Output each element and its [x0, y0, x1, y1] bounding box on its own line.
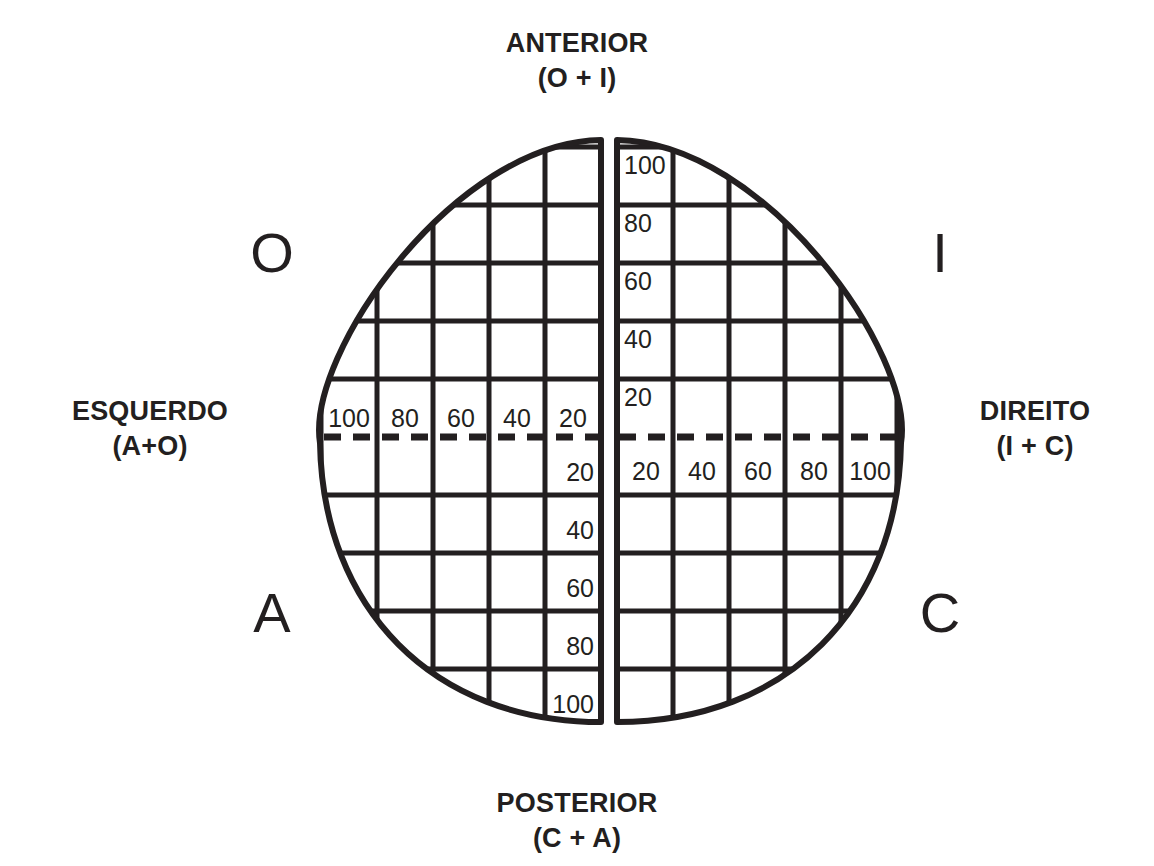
scale-horizontal-left-60: 60	[447, 404, 475, 432]
scale-vertical-upper-100: 100	[624, 151, 666, 179]
scale-vertical-lower-40: 40	[566, 516, 594, 544]
scale-horizontal-left-40: 40	[503, 404, 531, 432]
scale-vertical-lower-100: 100	[552, 690, 594, 718]
scale-horizontal-right-60: 60	[744, 457, 772, 485]
scale-horizontal-right-40: 40	[688, 457, 716, 485]
egg-outline-right	[617, 140, 902, 722]
scale-vertical-upper-20: 20	[624, 383, 652, 411]
scale-horizontal-left-80: 80	[391, 404, 419, 432]
scale-horizontal-right-80: 80	[800, 457, 828, 485]
scale-vertical-upper-60: 60	[624, 267, 652, 295]
scale-horizontal-right-20: 20	[632, 457, 660, 485]
scale-vertical-lower-80: 80	[566, 632, 594, 660]
scale-vertical-upper-40: 40	[624, 325, 652, 353]
scale-horizontal-right-100: 100	[849, 457, 891, 485]
grid-right-half	[617, 120, 921, 742]
scale-vertical-upper-80: 80	[624, 209, 652, 237]
scale-horizontal-left-20: 20	[559, 404, 587, 432]
egg-grid-diagram: 1008060402020406080100100806040202040608…	[0, 0, 1154, 866]
scale-vertical-lower-60: 60	[566, 574, 594, 602]
scale-vertical-lower-20: 20	[566, 458, 594, 486]
scale-horizontal-left-100: 100	[328, 404, 370, 432]
diagram-canvas: ANTERIOR(O + I) POSTERIOR(C + A) ESQUERD…	[0, 0, 1154, 866]
